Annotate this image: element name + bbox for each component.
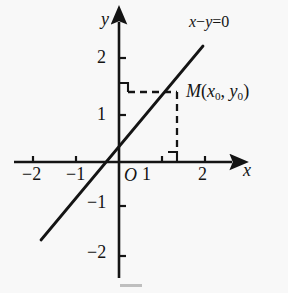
point-m-label: M(x0, y0) xyxy=(186,82,249,102)
y-tick-label-neg2: −2 xyxy=(87,243,106,261)
line-x-minus-y-equals-zero xyxy=(41,46,203,240)
y-tick-label-neg1: −1 xyxy=(87,193,106,211)
origin-label: O xyxy=(124,166,137,184)
y-axis-label: y xyxy=(101,10,109,28)
x-tick-label-pos2: 2 xyxy=(198,165,207,183)
point-m-comma: , xyxy=(221,81,226,101)
diagram-canvas xyxy=(0,0,288,293)
line-equation-label: x−y=0 xyxy=(189,14,229,30)
caption-cutoff-mark xyxy=(120,284,142,287)
point-m-name: M xyxy=(186,81,201,101)
point-m-y-symbol: y xyxy=(230,81,238,101)
y-tick-label-pos2: 2 xyxy=(97,48,106,66)
y-tick-label-pos1: 1 xyxy=(97,105,106,123)
equation-equals-zero: =0 xyxy=(212,13,229,30)
equation-minus-operator: − xyxy=(196,13,205,30)
x-axis-label: x xyxy=(243,161,251,179)
x-tick-label-neg2: −2 xyxy=(22,165,41,183)
x-tick-label-pos1: 1 xyxy=(142,165,151,183)
coordinate-plane-figure: −2 −1 1 2 2 1 −1 −2 x y O x−y=0 M(x0, y0… xyxy=(0,0,288,293)
right-angle-marker-y-axis xyxy=(119,83,128,92)
point-m-x-symbol: x xyxy=(207,81,215,101)
x-tick-label-neg1: −1 xyxy=(66,165,85,183)
point-m-close-paren: ) xyxy=(243,81,249,101)
right-angle-marker-x-axis xyxy=(168,152,177,162)
